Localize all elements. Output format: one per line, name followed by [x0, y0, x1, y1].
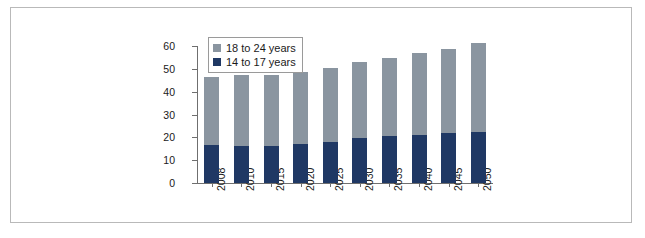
legend-item: 14 to 17 years — [213, 55, 296, 69]
x-axis-tick — [389, 183, 390, 187]
x-axis-tick — [271, 183, 272, 187]
bar-stack[interactable] — [382, 58, 397, 183]
legend-item-label: 18 to 24 years — [226, 43, 296, 54]
bar-segment-18-to-24[interactable] — [293, 72, 308, 144]
y-axis-tick — [192, 115, 197, 116]
y-axis-line — [197, 46, 198, 182]
y-axis-tick-label: 40 — [135, 87, 175, 98]
bar-stack[interactable] — [234, 75, 249, 183]
x-axis-tick — [449, 183, 450, 187]
legend-item: 18 to 24 years — [213, 41, 296, 55]
x-axis-tick — [301, 183, 302, 187]
bar-stack[interactable] — [471, 43, 486, 183]
y-axis-tick — [192, 160, 197, 161]
legend-item-label: 14 to 17 years — [226, 57, 296, 68]
chart-legend: 18 to 24 years14 to 17 years — [208, 37, 303, 73]
y-axis-tick-label: 0 — [135, 178, 175, 189]
bar-segment-18-to-24[interactable] — [352, 62, 367, 138]
bar-stack[interactable] — [264, 75, 279, 183]
bar-stack[interactable] — [323, 68, 338, 183]
y-axis-tick-label: 60 — [135, 41, 175, 52]
bar-segment-14-to-17[interactable] — [323, 142, 338, 183]
bar-stack[interactable] — [293, 72, 308, 182]
bar-segment-14-to-17[interactable] — [234, 146, 249, 182]
bar-segment-14-to-17[interactable] — [293, 144, 308, 183]
bar-stack[interactable] — [441, 49, 456, 183]
y-axis-tick — [192, 92, 197, 93]
y-axis-tick — [192, 69, 197, 70]
legend-swatch-icon — [213, 44, 221, 52]
bar-stack[interactable] — [352, 62, 367, 182]
bar-segment-18-to-24[interactable] — [412, 53, 427, 135]
y-axis-tick-label: 10 — [135, 155, 175, 166]
x-axis-tick — [330, 183, 331, 187]
bar-segment-18-to-24[interactable] — [323, 68, 338, 142]
stacked-bar-chart: 0102030405060 20082010201520202025203020… — [176, 33, 506, 213]
y-axis-tick — [192, 46, 197, 47]
bar-segment-14-to-17[interactable] — [204, 145, 219, 183]
bar-segment-18-to-24[interactable] — [382, 58, 397, 136]
chart-frame: 0102030405060 20082010201520202025203020… — [10, 7, 632, 223]
x-axis-tick — [241, 183, 242, 187]
bar-segment-14-to-17[interactable] — [264, 146, 279, 182]
x-axis-tick — [360, 183, 361, 187]
bar-segment-14-to-17[interactable] — [441, 133, 456, 183]
legend-swatch-icon — [213, 58, 221, 66]
bar-segment-18-to-24[interactable] — [264, 75, 279, 147]
y-axis-tick — [192, 137, 197, 138]
bar-segment-14-to-17[interactable] — [382, 136, 397, 183]
y-axis-tick — [192, 183, 197, 184]
y-axis-tick-label: 30 — [135, 110, 175, 121]
bar-segment-18-to-24[interactable] — [204, 77, 219, 145]
y-axis-tick-label: 20 — [135, 132, 175, 143]
y-axis-tick-label: 50 — [135, 64, 175, 75]
x-axis-tick — [419, 183, 420, 187]
bar-segment-14-to-17[interactable] — [352, 138, 367, 182]
x-axis-tick — [212, 183, 213, 187]
bar-segment-14-to-17[interactable] — [412, 135, 427, 183]
x-axis-tick — [478, 183, 479, 187]
bar-segment-14-to-17[interactable] — [471, 132, 486, 183]
bar-stack[interactable] — [204, 77, 219, 183]
bar-stack[interactable] — [412, 53, 427, 183]
bar-segment-18-to-24[interactable] — [471, 43, 486, 132]
bar-segment-18-to-24[interactable] — [441, 49, 456, 133]
bar-segment-18-to-24[interactable] — [234, 75, 249, 147]
